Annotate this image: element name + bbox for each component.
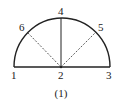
center-point-2	[60, 66, 63, 69]
point-label-3: 3	[106, 69, 112, 81]
figure-caption: (1)	[55, 87, 68, 100]
semicircle-diagram: 1 2 3 4 5 6 (1)	[0, 0, 118, 111]
radius-line-2-6	[27, 32, 61, 67]
point-label-4: 4	[58, 5, 64, 17]
point-label-6: 6	[19, 21, 25, 33]
point-label-2: 2	[58, 69, 64, 81]
point-label-1: 1	[11, 69, 17, 81]
point-label-5: 5	[98, 21, 104, 33]
radius-line-2-5	[61, 32, 96, 67]
semicircle-arc	[14, 18, 110, 67]
